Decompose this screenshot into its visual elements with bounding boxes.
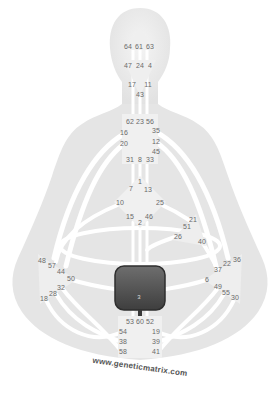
gate-label: 63	[146, 43, 154, 50]
gate-label: 26	[174, 233, 182, 240]
gate-label: 11	[144, 81, 151, 88]
gate-label: 25	[156, 199, 164, 206]
gate-label: 48	[38, 257, 46, 264]
bodygraph-chart	[0, 0, 280, 393]
gate-label: 28	[49, 290, 57, 297]
gate-label: 41	[152, 348, 160, 355]
gate-label: 7	[129, 185, 133, 192]
gate-label: 62	[126, 118, 134, 125]
gate-label: 47	[124, 62, 132, 69]
sacral-gate-label: 3	[137, 294, 140, 300]
gate-label: 57	[48, 262, 56, 269]
gate-label: 2	[138, 219, 142, 226]
gate-label: 33	[146, 156, 154, 163]
gate-label: 54	[119, 328, 127, 335]
gate-label: 12	[152, 138, 160, 145]
gate-label: 32	[57, 284, 65, 291]
gate-label: 22	[223, 260, 231, 267]
gate-label: 53	[126, 318, 134, 325]
gate-label: 37	[214, 266, 222, 273]
gate-label: 17	[128, 81, 136, 88]
gate-label: 24	[136, 62, 144, 69]
gate-label: 21	[189, 216, 197, 223]
gate-label: 50	[67, 275, 75, 282]
gate-label: 18	[40, 295, 48, 302]
gate-label: 6	[205, 276, 209, 283]
gate-label: 40	[198, 238, 206, 245]
gate-label: 36	[233, 256, 241, 263]
gate-label: 4	[148, 62, 152, 69]
gate-label: 64	[124, 43, 132, 50]
gate-label: 45	[152, 148, 160, 155]
gate-label: 60	[136, 318, 144, 325]
gate-label: 49	[214, 283, 222, 290]
gate-label: 35	[152, 127, 160, 134]
gate-label: 51	[183, 223, 191, 230]
gate-label: 56	[146, 118, 154, 125]
gate-label: 58	[119, 348, 127, 355]
gate-label: 38	[119, 338, 127, 345]
gate-label: 16	[120, 129, 128, 136]
gate-label: 20	[120, 140, 128, 147]
gate-label: 13	[144, 186, 152, 193]
gate-label: 19	[152, 328, 160, 335]
gate-label: 8	[138, 156, 142, 163]
gate-label: 46	[145, 213, 153, 220]
gate-label: 1	[138, 178, 142, 185]
gate-label: 23	[136, 118, 144, 125]
center-sacral	[115, 266, 165, 310]
gate-label: 61	[135, 43, 143, 50]
gate-label: 43	[136, 91, 144, 98]
gate-label: 44	[57, 268, 65, 275]
gate-label: 52	[146, 318, 154, 325]
gate-label: 55	[222, 289, 230, 296]
gate-label: 31	[126, 156, 134, 163]
gate-label: 39	[152, 338, 160, 345]
gate-label: 10	[116, 199, 124, 206]
gate-label: 15	[126, 213, 134, 220]
gate-label: 30	[231, 294, 239, 301]
